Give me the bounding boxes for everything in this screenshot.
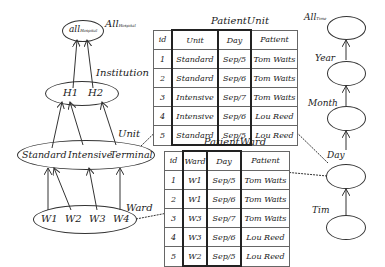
- ward-w3: W3: [89, 213, 106, 224]
- table-cell: Sep/6: [218, 69, 251, 88]
- all-hospital-label-text: All: [105, 18, 119, 29]
- table-cell: Intensive: [172, 88, 218, 107]
- table-cell: W3: [183, 209, 207, 228]
- table-cell: Tom Waits: [251, 69, 298, 88]
- table-cell: Intensive: [172, 107, 218, 126]
- column-header: id: [154, 30, 173, 50]
- table-header-row: id Ward Day Patient: [165, 151, 290, 171]
- time-day-node: [326, 164, 366, 189]
- table-cell: 2: [154, 69, 173, 88]
- time-month-node: [327, 106, 366, 131]
- table-cell: Sep/6: [218, 107, 251, 126]
- table-cell: Tom Waits: [251, 88, 298, 107]
- table-cell: 1: [154, 50, 173, 69]
- time-year-node: [327, 61, 366, 86]
- patient-ward-table: id Ward Day Patient 1 W1 Sep/5 Tom Waits…: [164, 150, 290, 267]
- table-header-row: id Unit Day Patient: [154, 30, 298, 50]
- column-header: Ward: [183, 151, 207, 171]
- table-row: 1 W1 Sep/5 Tom Waits: [165, 171, 290, 190]
- table-cell: Tom Waits: [241, 171, 290, 190]
- time-all-subscript: Time: [316, 16, 326, 21]
- table-cell: Sep/7: [207, 209, 241, 228]
- table-cell: Lou Reed: [241, 247, 290, 267]
- unit-label: Unit: [118, 128, 140, 139]
- column-header: Unit: [172, 30, 218, 50]
- table-cell: Standard: [172, 69, 218, 88]
- table-row: 3 Intensive Sep/7 Tom Waits: [154, 88, 298, 107]
- institution-label: Institution: [96, 67, 149, 78]
- table-cell: Sep/6: [207, 190, 241, 209]
- table-cell: W2: [183, 247, 207, 267]
- table-cell: W3: [183, 228, 207, 247]
- time-month-label: Month: [308, 98, 338, 108]
- table-cell: Sep/5: [207, 247, 241, 267]
- table-cell: Standard: [172, 50, 218, 69]
- time-tim-label: Tim: [312, 205, 329, 215]
- table-cell: 3: [165, 209, 184, 228]
- table-cell: 4: [154, 107, 173, 126]
- all-hospital-label: AllHospital: [105, 18, 136, 29]
- all-hospital-subscript: Hospital: [80, 28, 97, 33]
- column-header: Patient: [251, 30, 298, 50]
- column-header: Day: [218, 30, 251, 50]
- column-header: Day: [207, 151, 241, 171]
- time-tim-node: [326, 215, 366, 240]
- ward-w1: W1: [41, 213, 58, 224]
- institution-h1: H1: [63, 87, 78, 98]
- table-row: 1 Standard Sep/5 Tom Waits: [154, 50, 298, 69]
- column-header: Patient: [241, 151, 290, 171]
- table-cell: Lou Reed: [251, 107, 298, 126]
- patient-unit-table: id Unit Day Patient 1 Standard Sep/5 Tom…: [153, 29, 298, 146]
- table-cell: Sep/5: [207, 171, 241, 190]
- institution-node: [45, 81, 119, 106]
- ward-w4: W4: [113, 213, 130, 224]
- unit-standard: Standard: [22, 149, 66, 160]
- table-cell: Sep/6: [207, 228, 241, 247]
- table-cell: Sep/7: [218, 88, 251, 107]
- table-cell: Tom Waits: [251, 50, 298, 69]
- patient-ward-title: PatientWard: [190, 136, 280, 147]
- all-hospital-text: all: [69, 24, 80, 34]
- table-cell: 1: [165, 171, 184, 190]
- table-cell: 5: [154, 126, 173, 146]
- time-day-label: Day: [327, 150, 345, 160]
- unit-intensive: Intensive: [68, 149, 112, 160]
- column-header: id: [165, 151, 184, 171]
- table-cell: Lou Reed: [241, 228, 290, 247]
- time-all-node: [327, 16, 366, 40]
- all-hospital-node-label: allHospital: [69, 24, 97, 34]
- table-cell: 4: [165, 228, 184, 247]
- table-cell: Tom Waits: [241, 190, 290, 209]
- table-cell: 5: [165, 247, 184, 267]
- table-cell: Sep/5: [218, 50, 251, 69]
- time-all-text: All: [304, 12, 316, 22]
- table-row: 2 Standard Sep/6 Tom Waits: [154, 69, 298, 88]
- table-row: 5 W2 Sep/5 Lou Reed: [165, 247, 290, 267]
- patient-unit-title: PatientUnit: [195, 15, 285, 26]
- table-cell: Tom Waits: [241, 209, 290, 228]
- table-cell: W1: [183, 171, 207, 190]
- table-row: 4 Intensive Sep/6 Lou Reed: [154, 107, 298, 126]
- institution-h2: H2: [88, 87, 103, 98]
- table-cell: 2: [165, 190, 184, 209]
- ward-w2: W2: [65, 213, 82, 224]
- time-year-label: Year: [315, 53, 335, 63]
- all-hospital-label-subscript: Hospital: [119, 23, 136, 28]
- table-cell: 3: [154, 88, 173, 107]
- table-cell: W1: [183, 190, 207, 209]
- table-row: 2 W1 Sep/6 Tom Waits: [165, 190, 290, 209]
- unit-terminal: Terminal: [110, 149, 153, 160]
- table-row: 4 W3 Sep/6 Lou Reed: [165, 228, 290, 247]
- table-row: 3 W3 Sep/7 Tom Waits: [165, 209, 290, 228]
- time-all-label: AllTime: [304, 12, 326, 22]
